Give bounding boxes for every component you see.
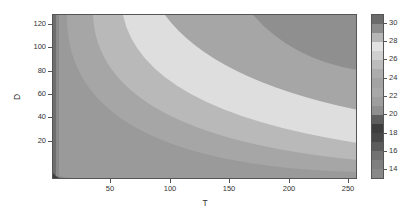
contour-fill (53, 15, 357, 179)
x-tick-label: 50 (95, 184, 125, 193)
colorbar-tick-label: 16 (389, 146, 397, 155)
colorbar-band (372, 160, 383, 169)
colorbar-tick-label: 22 (389, 91, 397, 100)
colorbar-band (372, 106, 383, 115)
colorbar-band (372, 97, 383, 106)
colorbar-tick-label: 20 (389, 109, 397, 118)
colorbar-band (372, 124, 383, 133)
colorbar-tick-label: 26 (389, 54, 397, 63)
colorbar-band (372, 151, 383, 160)
y-axis-label: D (12, 94, 22, 100)
x-tick-label: 250 (333, 184, 363, 193)
y-tick-label: 60 (26, 89, 46, 98)
colorbar-band (372, 115, 383, 124)
y-tick-label: 20 (26, 136, 46, 145)
colorbar-tick-label: 18 (389, 128, 397, 137)
colorbar-band (372, 169, 383, 178)
colorbar-tick-label: 28 (389, 36, 397, 45)
colorbar-band (372, 24, 383, 33)
colorbar (371, 14, 384, 179)
colorbar-band (372, 60, 383, 69)
y-tick-label: 100 (26, 42, 46, 51)
colorbar-band (372, 33, 383, 42)
colorbar-band (372, 42, 383, 51)
x-tick-label: 100 (155, 184, 185, 193)
x-tick-label: 200 (274, 184, 304, 193)
colorbar-band (372, 69, 383, 78)
y-tick-label: 120 (26, 19, 46, 28)
x-axis-label: T (190, 198, 220, 208)
y-tick-label: 80 (26, 66, 46, 75)
colorbar-band (372, 51, 383, 60)
colorbar-band (372, 78, 383, 87)
colorbar-tick-label: 30 (389, 18, 397, 27)
x-tick-label: 150 (214, 184, 244, 193)
colorbar-band (372, 142, 383, 151)
colorbar-band (372, 15, 383, 24)
contour-plot-area (52, 14, 357, 179)
y-tick-label: 40 (26, 112, 46, 121)
colorbar-tick-label: 24 (389, 73, 397, 82)
colorbar-tick-label: 14 (389, 164, 397, 173)
colorbar-band (372, 88, 383, 97)
colorbar-band (372, 133, 383, 142)
